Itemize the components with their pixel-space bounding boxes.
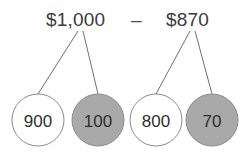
connector-line-1000-to-100	[83, 31, 98, 94]
node-label-70: 70	[182, 113, 242, 130]
total-label-right: $870	[166, 10, 209, 29]
connector-line-870-to-800	[156, 31, 190, 94]
number-bond-diagram: $1,000 – $870 900 100 800 70	[0, 0, 252, 152]
connector-line-1000-to-900	[38, 31, 78, 94]
total-label-left: $1,000	[46, 10, 105, 29]
node-label-100: 100	[68, 113, 128, 130]
node-label-900: 900	[8, 113, 68, 130]
node-label-800: 800	[126, 113, 186, 130]
connector-line-870-to-70	[195, 31, 212, 94]
subtraction-operator: –	[131, 10, 142, 29]
